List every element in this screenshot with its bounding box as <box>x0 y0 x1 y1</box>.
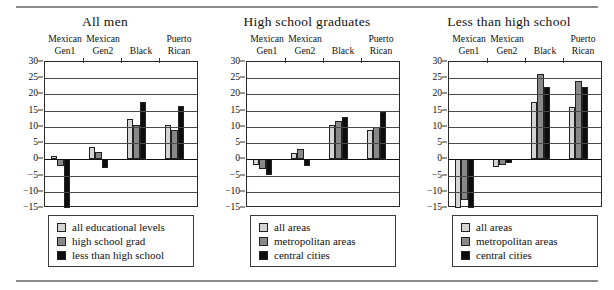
y-axis-tick-mark <box>240 125 245 126</box>
category-label-line1: Mexican <box>286 33 324 45</box>
y-axis-tick-label: 20 <box>230 88 240 98</box>
category-label-line2: Gen1 <box>248 45 286 57</box>
y-axis-tick-mark <box>442 77 447 78</box>
bar <box>544 87 550 160</box>
legend: all areasmetropolitan areascentral citie… <box>452 215 598 267</box>
zero-line <box>247 159 399 160</box>
bar-group <box>121 62 159 206</box>
plot-area: 302520151050−5−10−15 <box>206 61 404 207</box>
bars <box>159 62 197 206</box>
gridline <box>247 143 399 144</box>
bars <box>285 62 323 206</box>
panel-high-school-graduates: High school graduates MexicanGen1Mexican… <box>206 12 408 274</box>
category-label-line1 <box>526 33 564 45</box>
bars <box>449 62 487 206</box>
panel-title: High school graduates <box>206 14 408 31</box>
category-label: PuertoRican <box>564 33 602 61</box>
bar-groups <box>45 62 197 206</box>
category-label-line2: Rican <box>362 45 400 57</box>
y-axis-tick-label: 25 <box>432 72 442 82</box>
y-axis-tick-mark <box>240 158 245 159</box>
y-axis-tick-label: −10 <box>23 186 38 196</box>
bars <box>121 62 159 206</box>
y-axis-tick-mark <box>240 93 245 94</box>
category-label: Black <box>122 33 160 61</box>
gridline <box>247 176 399 177</box>
y-axis-tick-mark <box>38 93 43 94</box>
category-label-line1: Puerto <box>160 33 198 45</box>
category-label-line2: Black <box>324 45 362 57</box>
y-axis-tick-label: 15 <box>230 105 240 115</box>
bar <box>380 112 386 159</box>
category-label-line1: Mexican <box>450 33 488 45</box>
top-rule <box>16 6 598 8</box>
bars <box>45 62 83 206</box>
category-label: MexicanGen2 <box>488 33 526 61</box>
legend-swatch <box>57 251 66 260</box>
legend-swatch <box>259 251 268 260</box>
bar-group <box>83 62 121 206</box>
panel-title: All men <box>4 14 206 31</box>
legend-label: less than high school <box>72 249 164 262</box>
legend-label: central cities <box>476 249 532 262</box>
category-label: Black <box>324 33 362 61</box>
category-label: MexicanGen1 <box>248 33 286 61</box>
bar <box>582 87 588 159</box>
y-axis-tick-label: 30 <box>28 56 38 66</box>
legend-label: all areas <box>476 221 512 234</box>
category-labels: MexicanGen1MexicanGen2BlackPuertoRican <box>46 33 198 61</box>
legend-swatch <box>461 251 470 260</box>
panel-title: Less than high school <box>408 14 610 31</box>
panel-less-than-high-school: Less than high school MexicanGen1Mexican… <box>408 12 610 274</box>
plot-frame <box>44 61 198 207</box>
category-label-line2: Rican <box>564 45 602 57</box>
category-label: MexicanGen1 <box>450 33 488 61</box>
legend-swatch <box>259 223 268 232</box>
panel-all-men: All men MexicanGen1MexicanGen2BlackPuert… <box>4 12 206 274</box>
legend: all areasmetropolitan areascentral citie… <box>250 215 396 267</box>
bar-group <box>159 62 197 206</box>
legend-item: high school grad <box>57 234 185 248</box>
y-axis-tick-mark <box>38 142 43 143</box>
gridline <box>45 176 197 177</box>
y-axis-tick-mark <box>38 109 43 110</box>
category-label-line2: Gen2 <box>488 45 526 57</box>
legend-item: all areas <box>259 220 387 234</box>
category-label-line2: Black <box>122 45 160 57</box>
legend-item: metropolitan areas <box>461 234 589 248</box>
legend-item: all educational levels <box>57 220 185 234</box>
y-axis-tick-label: 10 <box>432 121 442 131</box>
category-label-line1: Mexican <box>248 33 286 45</box>
legend-label: high school grad <box>72 235 145 248</box>
legend-item: central cities <box>461 248 589 262</box>
y-axis-tick-mark <box>38 190 43 191</box>
y-axis-tick-mark <box>38 174 43 175</box>
y-axis-tick-mark <box>442 93 447 94</box>
legend-item: central cities <box>259 248 387 262</box>
bar-group <box>45 62 83 206</box>
category-label: MexicanGen2 <box>286 33 324 61</box>
bar-group <box>361 62 399 206</box>
bar <box>64 159 70 208</box>
y-axis-tick-label: 10 <box>230 121 240 131</box>
gridline <box>247 192 399 193</box>
bar-groups <box>449 62 601 206</box>
gridline <box>449 127 601 128</box>
legend-label: metropolitan areas <box>476 235 558 248</box>
bars <box>525 62 563 206</box>
y-axis-tick-label: 10 <box>28 121 38 131</box>
y-axis-tick-mark <box>240 190 245 191</box>
y-axis-tick-mark <box>442 158 447 159</box>
bar <box>342 117 348 159</box>
y-axis: 302520151050−5−10−15 <box>4 61 42 207</box>
category-label: PuertoRican <box>362 33 400 61</box>
plot-frame <box>448 61 602 207</box>
legend-label: central cities <box>274 249 330 262</box>
y-axis-tick-mark <box>442 125 447 126</box>
legend-item: metropolitan areas <box>259 234 387 248</box>
gridline <box>449 78 601 79</box>
category-label-line2: Gen1 <box>450 45 488 57</box>
category-label-line1 <box>324 33 362 45</box>
y-axis-tick-label: −5 <box>28 170 38 180</box>
gridline <box>45 192 197 193</box>
